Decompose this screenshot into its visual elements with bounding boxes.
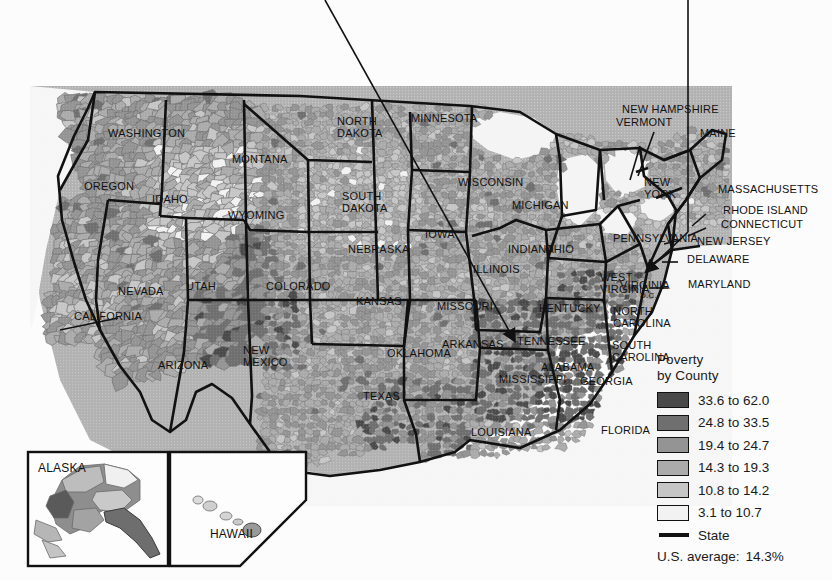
state-label-nevada: NEVADA bbox=[118, 285, 164, 297]
state-label-california: CALIFORNIA bbox=[74, 310, 142, 322]
legend-class-rows: 33.6 to 62.024.8 to 33.519.4 to 24.714.3… bbox=[657, 389, 832, 524]
legend-row-4: 10.8 to 14.2 bbox=[657, 479, 832, 502]
map-legend: Poverty by County 33.6 to 62.024.8 to 33… bbox=[657, 352, 832, 564]
legend-swatch-3 bbox=[657, 460, 689, 476]
state-label-kansas: KANSAS bbox=[356, 295, 402, 307]
state-label-tennessee: TENNESSEE bbox=[517, 335, 585, 347]
state-label-wisconsin: WISCONSIN bbox=[458, 176, 523, 188]
state-label-maryland: MARYLAND bbox=[688, 278, 751, 290]
state-label-delaware: DELAWARE bbox=[687, 253, 750, 265]
legend-swatch-1 bbox=[657, 415, 689, 431]
state-label-illinois: ILLINOIS bbox=[473, 263, 520, 275]
state-label-florida: FLORIDA bbox=[601, 424, 651, 436]
state-label-louisiana: LOUISIANA bbox=[471, 426, 532, 438]
state-label-montana: MONTANA bbox=[232, 153, 288, 165]
state-label-massachusetts: MASSACHUSETTS bbox=[718, 183, 818, 195]
legend-row-3: 14.3 to 19.3 bbox=[657, 457, 832, 480]
poverty-map-page: WASHINGTONOREGONIDAHOMONTANAWYOMINGNEVAD… bbox=[0, 0, 832, 580]
legend-label-0: 33.6 to 62.0 bbox=[698, 393, 769, 408]
state-label-utah: UTAH bbox=[186, 280, 216, 292]
state-label-georgia: GEORGIA bbox=[580, 375, 633, 387]
inset-hawaii[interactable] bbox=[168, 452, 306, 566]
state-label-idaho: IDAHO bbox=[152, 193, 188, 205]
state-label-texas: TEXAS bbox=[363, 390, 400, 402]
legend-swatch-0 bbox=[657, 392, 689, 408]
state-label-nebraska: NEBRASKA bbox=[348, 243, 410, 255]
legend-label-1: 24.8 to 33.5 bbox=[698, 415, 769, 430]
state-label-mississippi: MISSISSIPPI bbox=[499, 373, 567, 385]
legend-title-line2: by County bbox=[657, 368, 832, 384]
legend-row-2: 19.4 to 24.7 bbox=[657, 434, 832, 457]
legend-swatch-2 bbox=[657, 437, 689, 453]
state-label-minnesota: MINNESOTA bbox=[411, 112, 478, 124]
legend-state-label: State bbox=[698, 528, 730, 543]
state-label-oregon: OREGON bbox=[84, 180, 134, 192]
legend-label-2: 19.4 to 24.7 bbox=[698, 438, 769, 453]
state-label-new-hampshire: NEW HAMPSHIRE bbox=[622, 103, 719, 115]
state-label-vermont: VERMONT bbox=[616, 116, 672, 128]
legend-label-5: 3.1 to 10.7 bbox=[698, 505, 762, 520]
state-label-michigan: MICHIGAN bbox=[512, 199, 569, 211]
state-label-wyoming: WYOMING bbox=[228, 209, 284, 221]
state-label-north-dakota: NORTHDAKOTA bbox=[337, 115, 383, 139]
state-label-rhode-island: RHODE ISLAND bbox=[723, 204, 808, 216]
legend-row-state: State bbox=[657, 524, 832, 546]
legend-title: Poverty by County bbox=[657, 352, 832, 383]
state-label-washington: WASHINGTON bbox=[108, 127, 185, 139]
legend-title-line1: Poverty bbox=[657, 352, 832, 368]
legend-swatch-4 bbox=[657, 482, 689, 498]
state-label-connecticut: CONNECTICUT bbox=[721, 218, 803, 230]
state-label-arizona: ARIZONA bbox=[158, 359, 209, 371]
legend-row-5: 3.1 to 10.7 bbox=[657, 502, 832, 525]
legend-label-3: 14.3 to 19.3 bbox=[698, 460, 769, 475]
state-label-pennsylvania: PENNSYLVANIA bbox=[613, 232, 699, 244]
state-label-ohio: OHIO bbox=[545, 243, 574, 255]
legend-row-1: 24.8 to 33.5 bbox=[657, 412, 832, 435]
state-label-iowa: IOWA bbox=[425, 228, 455, 240]
legend-row-0: 33.6 to 62.0 bbox=[657, 389, 832, 412]
state-label-kentucky: KENTUCKY bbox=[539, 302, 601, 314]
legend-label-4: 10.8 to 14.2 bbox=[698, 483, 769, 498]
state-line-icon bbox=[659, 533, 689, 537]
state-label-alabama: ALABAMA bbox=[541, 361, 595, 373]
state-label-south-dakota: SOUTHDAKOTA bbox=[342, 190, 388, 214]
state-label-maine: MAINE bbox=[700, 127, 736, 139]
state-label-alaska: ALASKA bbox=[38, 461, 86, 475]
legend-average-value: 14.3% bbox=[746, 549, 784, 564]
state-label-colorado: COLORADO bbox=[266, 280, 331, 292]
state-label-hawaii: HAWAII bbox=[210, 527, 253, 541]
legend-us-average: U.S. average:14.3% bbox=[657, 549, 832, 564]
state-label-arkansas: ARKANSAS bbox=[442, 338, 504, 350]
state-label-d-c-: D.C. bbox=[640, 291, 657, 300]
state-label-missouri: MISSOURI bbox=[437, 300, 493, 312]
legend-average-label: U.S. average: bbox=[657, 549, 740, 564]
state-label-new-jersey: NEW JERSEY bbox=[697, 235, 771, 247]
legend-swatch-5 bbox=[657, 505, 689, 521]
